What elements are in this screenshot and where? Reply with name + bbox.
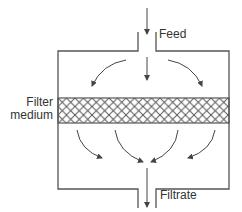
filtration-diagram: Feed Filter medium Filtrate <box>0 0 242 212</box>
upper-flow-arrows <box>92 57 202 86</box>
filter-label-line2: medium <box>10 108 53 122</box>
filter-medium <box>58 98 229 123</box>
lower-flow-arrows <box>77 130 215 162</box>
filtrate-label: Filtrate <box>160 188 197 202</box>
filter-label-line1: Filter <box>26 95 53 109</box>
feed-label: Feed <box>159 27 186 41</box>
